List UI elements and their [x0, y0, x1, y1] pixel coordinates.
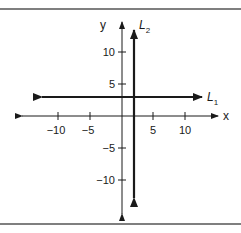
- x-axis: −10 −5 5 10 x: [22, 109, 229, 136]
- x-axis-label: x: [223, 109, 229, 123]
- y-tick-label: 5: [109, 78, 115, 90]
- line-l2-name: L: [139, 18, 146, 32]
- y-axis-label: y: [100, 18, 106, 32]
- y-tick-label: −10: [96, 174, 115, 186]
- x-tick-label: 5: [150, 124, 156, 136]
- line-l1: L1: [42, 90, 219, 107]
- y-tick-label: 10: [103, 46, 115, 58]
- x-tick-label: 10: [179, 124, 191, 136]
- x-tick-label: −10: [47, 124, 66, 136]
- line-l2-label: L2: [139, 18, 151, 35]
- line-l1-name: L: [207, 90, 214, 104]
- line-l2: L2: [134, 18, 151, 198]
- x-tick-label: −5: [82, 124, 95, 136]
- line-l1-subscript: 1: [214, 98, 219, 107]
- line-l2-subscript: 2: [146, 26, 151, 35]
- line-l1-label: L1: [207, 90, 219, 107]
- y-tick-label: −5: [102, 142, 115, 154]
- coordinate-plane-figure: −10 −5 5 10 x 10 5 −5 −10 y L1 L2: [0, 0, 241, 233]
